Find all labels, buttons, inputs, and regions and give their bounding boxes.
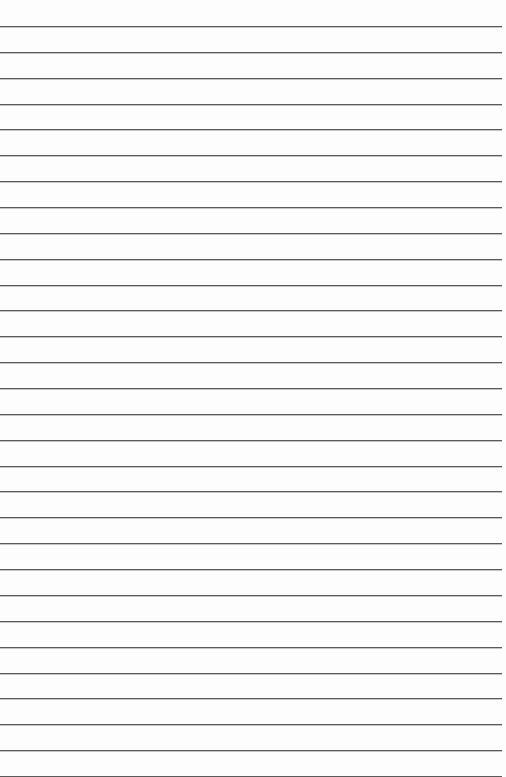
ruled-line	[0, 621, 502, 622]
ruled-line	[0, 52, 502, 53]
ruled-line	[0, 750, 502, 751]
ruled-line	[0, 388, 502, 389]
ruled-line	[0, 310, 502, 311]
ruled-line	[0, 569, 502, 570]
ruled-line	[0, 595, 502, 596]
ruled-line	[0, 698, 502, 699]
ruled-line	[0, 155, 502, 156]
ruled-line	[0, 673, 502, 674]
ruled-line	[0, 78, 502, 79]
ruled-line	[0, 207, 502, 208]
ruled-line	[0, 259, 502, 260]
ruled-line	[0, 104, 502, 105]
ruled-line	[0, 517, 502, 518]
ruled-line	[0, 491, 502, 492]
lined-paper-page	[0, 0, 506, 777]
ruled-line	[0, 466, 502, 467]
ruled-line	[0, 647, 502, 648]
ruled-line	[0, 440, 502, 441]
ruled-line	[0, 233, 502, 234]
ruled-line	[0, 26, 502, 27]
ruled-line	[0, 181, 502, 182]
ruled-line	[0, 336, 502, 337]
ruled-line	[0, 362, 502, 363]
ruled-line	[0, 129, 502, 130]
ruled-line	[0, 543, 502, 544]
ruled-line	[0, 414, 502, 415]
ruled-line	[0, 724, 502, 725]
ruled-line	[0, 285, 502, 286]
